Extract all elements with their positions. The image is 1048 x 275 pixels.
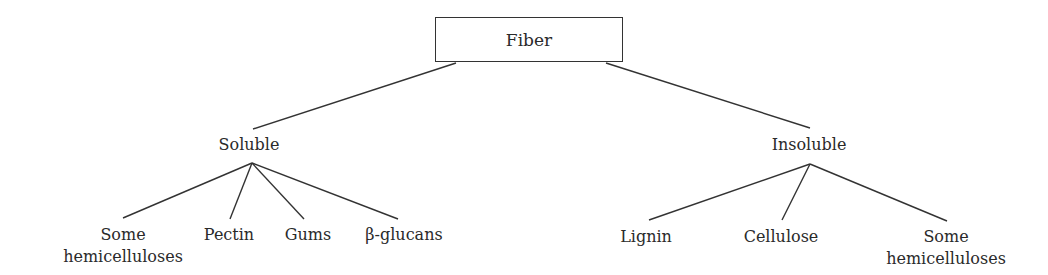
root-node-fiber: Fiber <box>435 17 623 62</box>
leaf-line1: Some <box>63 224 183 246</box>
node-insoluble: Insoluble <box>772 134 847 156</box>
edge-insoluble-hemicelluloses <box>810 164 947 221</box>
root-label: Fiber <box>506 30 552 50</box>
edge-soluble-gums <box>252 163 304 219</box>
edge-fiber-insoluble <box>606 63 810 128</box>
edge-fiber-soluble <box>253 63 456 129</box>
leaf-gums: Gums <box>285 224 331 246</box>
leaf-pectin: Pectin <box>204 224 254 246</box>
leaf-line2: hemicelluloses <box>886 248 1006 270</box>
leaf-line2: hemicelluloses <box>63 246 183 268</box>
edge-soluble-betaglucans <box>252 163 398 219</box>
edge-soluble-hemicelluloses <box>123 163 252 218</box>
node-soluble: Soluble <box>219 134 280 156</box>
leaf-cellulose: Cellulose <box>744 226 819 248</box>
leaf-line1: Some <box>886 226 1006 248</box>
leaf-soluble-hemicelluloses: Some hemicelluloses <box>63 224 183 268</box>
leaf-beta-glucans: β-glucans <box>365 224 442 246</box>
leaf-insoluble-hemicelluloses: Some hemicelluloses <box>886 226 1006 270</box>
leaf-lignin: Lignin <box>620 226 672 248</box>
